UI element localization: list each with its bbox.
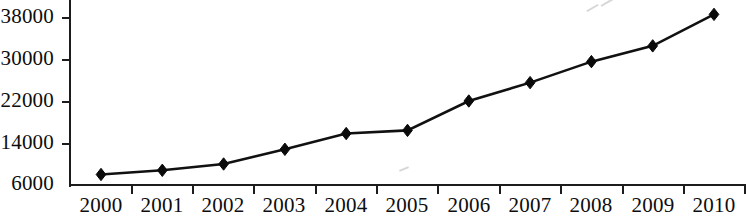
data-point-marker [464,95,474,107]
series-line [101,14,714,174]
series-markers [96,8,719,181]
data-point-marker [648,40,658,52]
data-point-marker [341,127,351,139]
data-point-marker [709,8,719,20]
series-plot [0,0,746,220]
data-point-marker [219,158,229,170]
data-point-marker [525,76,535,88]
data-point-marker [403,124,413,136]
data-point-marker [96,168,106,180]
data-point-marker [280,143,290,155]
line-chart: 38000 30000 22000 14000 6000 2000 2001 2… [0,0,746,220]
data-point-marker [157,164,167,176]
data-point-marker [587,55,597,67]
